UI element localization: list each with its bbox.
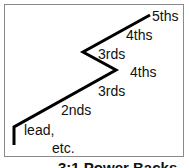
diagram-caption: 3:1 Power Backs: [58, 159, 177, 168]
label-4ths-top: 4ths: [126, 28, 152, 42]
label-3rds-mid: 3rds: [98, 84, 125, 98]
label-3rds-top: 3rds: [98, 47, 125, 61]
label-2nds: 2nds: [61, 103, 91, 117]
staircase-line: [0, 0, 189, 168]
label-etc: etc.: [52, 141, 75, 155]
label-5ths: 5ths: [152, 9, 178, 23]
label-lead: lead,: [24, 123, 54, 137]
label-4ths-mid: 4ths: [130, 65, 156, 79]
